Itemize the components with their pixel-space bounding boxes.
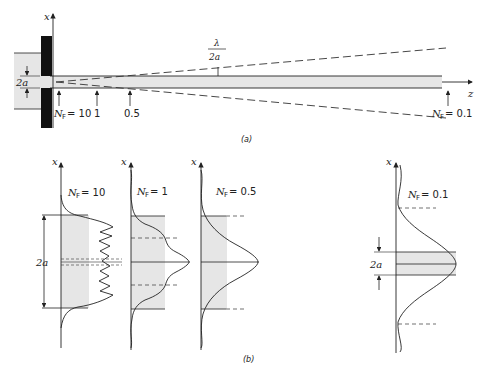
svg-text:x: x <box>386 156 392 167</box>
caption-b: (b) <box>243 355 254 364</box>
svg-text:F: F <box>62 113 66 121</box>
caption-a: (a) <box>241 135 252 144</box>
divergence-label-num: λ <box>213 38 220 48</box>
svg-text:F: F <box>76 192 80 200</box>
nf-marker-0.1: N F = 0.1 <box>431 108 472 121</box>
svg-text:x: x <box>121 156 127 167</box>
aperture-screen-top <box>41 36 52 76</box>
aperture-width-label-b4: 2a <box>369 259 382 270</box>
aperture-width-label-b1: 2a <box>35 257 48 268</box>
divergence-label-den: 2a <box>208 52 220 62</box>
nf-label-10: N F = 10 <box>67 187 105 200</box>
svg-text:= 1: = 1 <box>150 186 168 197</box>
svg-text:F: F <box>224 191 228 199</box>
geometric-beam <box>42 76 442 88</box>
svg-text:= 0.5: = 0.5 <box>229 186 256 197</box>
svg-text:F: F <box>416 194 420 202</box>
aperture-width-label-a: 2a <box>15 77 28 88</box>
svg-text:x: x <box>191 156 197 167</box>
nf-marker-10: N F = 10 <box>53 108 91 121</box>
svg-text:F: F <box>440 113 444 121</box>
fresnel-diffraction-figure: x z λ 2a 2a N F = 10 1 0.5 N F <box>0 0 484 380</box>
nf-label-0.1: N F = 0.1 <box>407 189 448 202</box>
svg-text:x: x <box>52 156 58 167</box>
nf-marker-1: 1 <box>94 108 100 119</box>
x-axis-label-a: x <box>44 11 50 22</box>
panel-nf-10: x 2a N F = 10 <box>35 156 122 348</box>
panel-nf-1: x N F = 1 <box>121 156 190 350</box>
nf-label-1: N F = 1 <box>136 186 168 199</box>
aperture-screen-bottom <box>41 88 52 128</box>
svg-text:= 10: = 10 <box>67 108 91 119</box>
nf-label-0.5: N F = 0.5 <box>215 186 256 199</box>
svg-text:= 0.1: = 0.1 <box>445 108 472 119</box>
panel-nf-0.1: x 2a N F = 0.1 <box>369 156 456 353</box>
z-axis-label-a: z <box>467 88 474 99</box>
svg-text:F: F <box>145 191 149 199</box>
svg-text:= 10: = 10 <box>81 187 105 198</box>
svg-text:= 0.1: = 0.1 <box>421 189 448 200</box>
panel-a: x z λ 2a 2a N F = 10 1 0.5 N F <box>14 11 474 144</box>
nf-marker-0.5: 0.5 <box>124 108 140 119</box>
panel-nf-0.5: x N F = 0.5 <box>191 156 259 350</box>
